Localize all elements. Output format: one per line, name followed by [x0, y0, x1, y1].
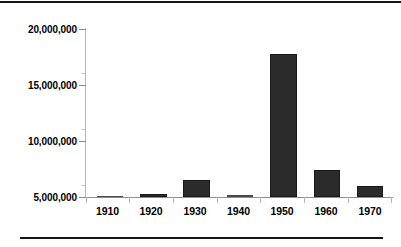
- x-separator-4: [260, 197, 261, 203]
- y-axis-labels: 20,000,000 15,000,000 10,000,000 5,000,0…: [0, 0, 77, 247]
- x-separator-7: [391, 197, 392, 203]
- x-axis-labels: 1910 1920 1930 1940 1950 1960 1970: [86, 204, 392, 222]
- y-tick-10000000: [79, 141, 86, 142]
- x-separator-2: [173, 197, 174, 203]
- bar-1960: [314, 170, 340, 197]
- y-axis-label-5000000: 5,000,000: [3, 192, 77, 203]
- x-axis-label-1910: 1910: [86, 204, 129, 218]
- x-separator-0: [86, 197, 87, 203]
- x-separator-6: [348, 197, 349, 203]
- x-axis-line: [85, 197, 393, 198]
- x-separator-3: [217, 197, 218, 203]
- x-axis-label-1960: 1960: [304, 204, 348, 218]
- x-axis-label-1930: 1930: [173, 204, 217, 218]
- x-separator-5: [304, 197, 305, 203]
- y-axis-label-15000000: 15,000,000: [3, 80, 77, 91]
- bar-1950: [270, 54, 297, 197]
- y-axis-label-20000000: 20,000,000: [3, 24, 77, 35]
- bar-1930: [183, 180, 210, 197]
- x-axis-label-1940: 1940: [217, 204, 260, 218]
- bar-chart: 20,000,000 15,000,000 10,000,000 5,000,0…: [0, 0, 401, 247]
- y-tick-20000000: [79, 29, 86, 30]
- x-axis-label-1950: 1950: [260, 204, 304, 218]
- plot-area: [86, 29, 392, 197]
- x-axis-label-1970: 1970: [348, 204, 392, 218]
- x-separator-1: [129, 197, 130, 203]
- y-axis-label-10000000: 10,000,000: [3, 136, 77, 147]
- bottom-horizontal-rule: [20, 237, 383, 239]
- y-tick-15000000: [79, 85, 86, 86]
- x-axis-label-1920: 1920: [129, 204, 173, 218]
- bar-1970: [357, 186, 383, 197]
